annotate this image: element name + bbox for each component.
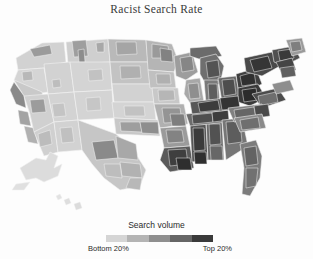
legend-swatch-5 [192,235,213,242]
legend-label-low: Bottom 20% [88,244,129,253]
legend-swatch-3 [149,235,170,242]
map-legend: Search volume Bottom 20% Top 20% [0,220,313,259]
us-map-svg [0,18,313,218]
choropleth-map [0,18,313,218]
legend-swatch-1 [106,235,127,242]
legend-labels: Bottom 20% Top 20% [88,244,232,256]
page-title: Racist Search Rate [0,3,313,15]
legend-color-bar [106,235,213,242]
legend-title: Search volume [0,220,313,230]
legend-label-high: Top 20% [203,244,232,253]
legend-swatch-4 [170,235,191,242]
legend-swatch-2 [127,235,148,242]
figure-root: Racist Search Rate [0,0,313,259]
